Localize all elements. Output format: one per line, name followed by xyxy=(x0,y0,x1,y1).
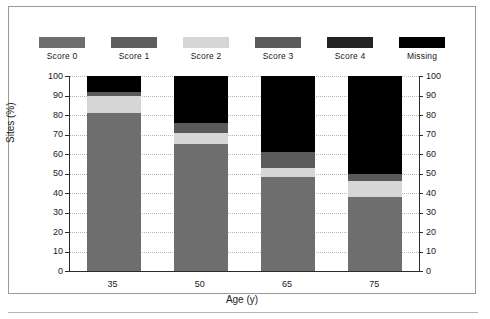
y-tick-label-right: 20 xyxy=(426,228,452,237)
legend-swatch-icon xyxy=(327,37,373,48)
bar-segment xyxy=(348,197,402,271)
y-tick-label-left: 80 xyxy=(37,111,63,120)
y-tick-label-right: 30 xyxy=(426,208,452,217)
legend-label: Score 2 xyxy=(191,51,222,61)
bar-segment xyxy=(174,76,228,123)
y-tick-label-right: 100 xyxy=(426,72,452,81)
y-tick-label-right: 80 xyxy=(426,111,452,120)
x-tick-label: 65 xyxy=(257,279,317,289)
stacked-bar xyxy=(174,76,228,271)
y-tick-label-left: 70 xyxy=(37,130,63,139)
bar-segment xyxy=(174,144,228,271)
legend-label: Score 3 xyxy=(263,51,294,61)
y-tick-label-left: 20 xyxy=(37,228,63,237)
bar-segment xyxy=(87,96,141,114)
legend-swatch-icon xyxy=(39,37,85,48)
bar-segment xyxy=(87,76,141,92)
y-tick-label-right: 0 xyxy=(426,267,452,276)
legend-label: Score 1 xyxy=(119,51,150,61)
chart-legend: Score 0Score 1Score 2Score 3Score 4Missi… xyxy=(9,37,475,61)
y-tick-label-right: 10 xyxy=(426,247,452,256)
y-tick-label-left: 100 xyxy=(37,72,63,81)
bar-segment xyxy=(348,76,402,174)
y-tick-label-left: 60 xyxy=(37,150,63,159)
x-tick-label: 35 xyxy=(83,279,143,289)
legend-item: Missing xyxy=(393,37,451,61)
plot-area xyxy=(69,76,420,272)
stacked-bar xyxy=(261,76,315,271)
bar-group xyxy=(70,76,419,271)
y-tick-label-left: 40 xyxy=(37,189,63,198)
y-tick-label-left: 50 xyxy=(37,169,63,178)
y-tick-label-left: 0 xyxy=(37,267,63,276)
stacked-bar xyxy=(87,76,141,271)
y-tick-label-left: 30 xyxy=(37,208,63,217)
y-tick-label-left: 90 xyxy=(37,91,63,100)
legend-swatch-icon xyxy=(255,37,301,48)
bar-segment xyxy=(261,76,315,152)
legend-swatch-icon xyxy=(183,37,229,48)
footer-rule xyxy=(8,312,478,313)
bar-segment xyxy=(261,177,315,271)
stacked-bar xyxy=(348,76,402,271)
bar-segment xyxy=(261,168,315,178)
y-tick-label-right: 50 xyxy=(426,169,452,178)
legend-item: Score 2 xyxy=(177,37,235,61)
legend-swatch-icon xyxy=(111,37,157,48)
legend-item: Score 1 xyxy=(105,37,163,61)
x-axis-label: Age (y) xyxy=(9,294,475,305)
y-tick-label-right: 60 xyxy=(426,150,452,159)
bar-segment xyxy=(348,174,402,182)
bar-segment xyxy=(174,123,228,133)
legend-item: Score 4 xyxy=(321,37,379,61)
x-tick-label: 75 xyxy=(344,279,404,289)
y-axis-label: Sites (%) xyxy=(5,102,16,143)
y-tick-label-right: 90 xyxy=(426,91,452,100)
legend-swatch-icon xyxy=(399,37,445,48)
y-tick-label-right: 40 xyxy=(426,189,452,198)
x-tick-label: 50 xyxy=(170,279,230,289)
y-tick-label-left: 10 xyxy=(37,247,63,256)
y-tick-label-right: 70 xyxy=(426,130,452,139)
legend-item: Score 0 xyxy=(33,37,91,61)
bar-segment xyxy=(174,133,228,145)
bar-segment xyxy=(348,181,402,197)
legend-item: Score 3 xyxy=(249,37,307,61)
legend-label: Score 4 xyxy=(335,51,366,61)
legend-label: Score 0 xyxy=(47,51,78,61)
bar-segment xyxy=(87,113,141,271)
legend-label: Missing xyxy=(407,51,437,61)
chart-figure: Score 0Score 1Score 2Score 3Score 4Missi… xyxy=(8,6,476,294)
bar-segment xyxy=(261,152,315,168)
